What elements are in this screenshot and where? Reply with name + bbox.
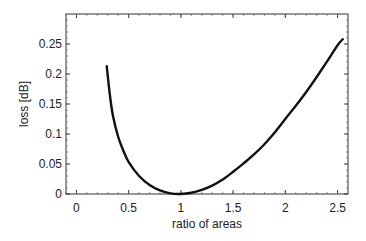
x-tick-label: 0.5 (120, 201, 137, 215)
y-tick-label: 0.15 (39, 97, 63, 111)
loss-curve (107, 39, 343, 194)
x-tick-label: 2 (282, 201, 289, 215)
x-tick-label: 1 (178, 201, 185, 215)
y-tick-label: 0 (55, 187, 62, 201)
y-tick-label: 0.05 (39, 157, 63, 171)
y-tick-label: 0.1 (45, 127, 62, 141)
line-chart: 00.511.522.5 00.050.10.150.20.25 ratio o… (0, 0, 366, 241)
y-tick-label: 0.25 (39, 37, 63, 51)
x-tick-label: 1.5 (225, 201, 242, 215)
x-tick-label: 0 (73, 201, 80, 215)
y-tick-labels: 00.050.10.150.20.25 (39, 37, 63, 201)
axis-ticks (66, 14, 348, 194)
plot-frame (66, 14, 348, 194)
y-tick-label: 0.2 (45, 67, 62, 81)
x-axis-label: ratio of areas (172, 217, 242, 231)
y-axis-label: loss [dB] (17, 81, 31, 127)
x-tick-labels: 00.511.522.5 (73, 201, 346, 215)
x-tick-label: 2.5 (329, 201, 346, 215)
